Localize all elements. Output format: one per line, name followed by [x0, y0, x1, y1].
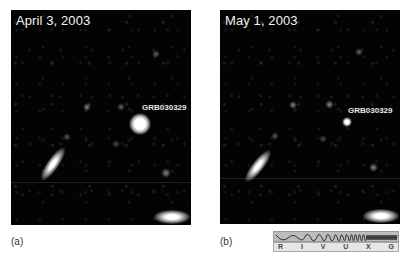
band-label: G [388, 243, 393, 251]
faint-source [63, 133, 71, 141]
band-label: V [321, 243, 326, 251]
faint-source [271, 132, 279, 140]
caption-a: (a) [11, 236, 23, 247]
spectrum-band-labels: R I V U X G [273, 242, 399, 252]
faint-source [355, 48, 363, 56]
band-label: U [343, 243, 348, 251]
grb-label-a: GRB030329 [142, 103, 186, 112]
faint-source [117, 103, 125, 111]
date-label-a: April 3, 2003 [16, 13, 90, 28]
scan-line [11, 182, 191, 183]
faint-source [289, 101, 297, 109]
faint-source [369, 163, 378, 172]
caption-b: (b) [220, 236, 232, 247]
faint-source [319, 135, 327, 143]
image-panel-a: April 3, 2003 GRB030329 [11, 10, 191, 225]
grb-afterglow-bright [129, 113, 151, 135]
background-noise [220, 10, 400, 224]
faint-source [325, 100, 334, 109]
faint-source [112, 140, 120, 148]
wavelength-wave-icon [273, 231, 399, 242]
band-label: I [301, 243, 303, 251]
background-noise [11, 10, 191, 225]
band-label: R [278, 243, 283, 251]
spectrum-bar: R I V U X G [273, 231, 399, 252]
galaxy [363, 209, 399, 223]
galaxy [154, 210, 190, 224]
grb-label-b: GRB030329 [348, 106, 392, 115]
band-label: X [366, 243, 371, 251]
image-panel-b: May 1, 2003 GRB030329 [220, 10, 400, 224]
grb-afterglow-faded [342, 117, 352, 127]
date-label-b: May 1, 2003 [225, 13, 298, 28]
faint-source [152, 50, 160, 58]
faint-source [161, 168, 171, 178]
faint-source [83, 103, 91, 111]
